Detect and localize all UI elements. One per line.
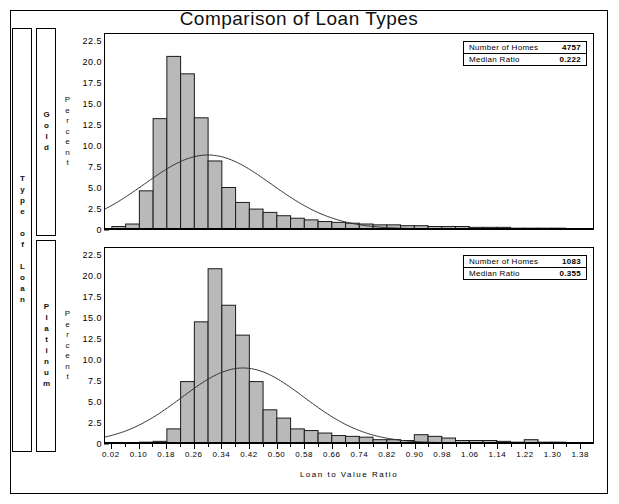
x-tick-mark-minor bbox=[401, 444, 402, 447]
histogram-panel-platinum: Number of Homes 1083 Median Ratio 0.355 bbox=[104, 247, 594, 444]
histogram-bar bbox=[208, 269, 222, 443]
y-tick-label: 5.0 bbox=[88, 183, 102, 193]
x-tick-label: 0.50 bbox=[268, 450, 286, 459]
x-tick-mark bbox=[580, 444, 581, 449]
histogram-bar bbox=[249, 209, 263, 229]
x-tick-mark-minor bbox=[484, 444, 485, 447]
histogram-bar bbox=[332, 222, 346, 229]
x-tick-mark bbox=[332, 444, 333, 449]
y-tick-label: 20.0 bbox=[82, 271, 102, 281]
x-tick-mark-minor bbox=[373, 444, 374, 447]
classification-label-type-of-loan: Type of Loan bbox=[18, 174, 26, 306]
x-tick-label: 1.38 bbox=[571, 450, 589, 459]
x-tick-mark-minor bbox=[152, 444, 153, 447]
y-tick-label: 0 bbox=[96, 439, 102, 449]
x-tick-mark-minor bbox=[180, 444, 181, 447]
x-tick-label: 0.58 bbox=[295, 450, 313, 459]
histogram-bar bbox=[332, 436, 346, 443]
histogram-bar bbox=[167, 429, 181, 443]
histogram-bar bbox=[236, 202, 250, 229]
x-tick-label: 1.06 bbox=[461, 450, 479, 459]
y-tick-label: 10.0 bbox=[82, 141, 102, 151]
legend-box-platinum: Number of Homes 1083 Median Ratio 0.355 bbox=[463, 255, 587, 280]
y-axis-ticks-gold: 22.520.017.515.012.510.07.55.02.50 bbox=[70, 33, 102, 230]
x-tick-label: 0.18 bbox=[157, 450, 175, 459]
classification-box-gold: Gold bbox=[36, 28, 56, 236]
histogram-bar bbox=[249, 382, 263, 443]
x-tick-mark bbox=[139, 444, 140, 449]
x-tick-label: 0.90 bbox=[406, 450, 424, 459]
histogram-bar bbox=[263, 410, 277, 443]
x-tick-label: 1.14 bbox=[489, 450, 507, 459]
x-tick-mark bbox=[525, 444, 526, 449]
x-tick-label: 1.30 bbox=[544, 450, 562, 459]
page-title: Comparison of Loan Types bbox=[0, 8, 598, 30]
y-tick-label: 22.5 bbox=[82, 36, 102, 46]
y-tick-label: 2.5 bbox=[88, 418, 102, 428]
histogram-bar bbox=[291, 429, 305, 443]
x-tick-label: 0.66 bbox=[323, 450, 341, 459]
legend-value-number-of-homes: 1083 bbox=[562, 257, 581, 266]
y-tick-label: 17.5 bbox=[82, 78, 102, 88]
x-tick-label: 0.10 bbox=[130, 450, 148, 459]
y-tick-label: 7.5 bbox=[88, 162, 102, 172]
x-tick-mark bbox=[304, 444, 305, 449]
x-tick-mark bbox=[442, 444, 443, 449]
classification-label-platinum: Platinum bbox=[42, 302, 50, 390]
y-tick-label: 15.0 bbox=[82, 99, 102, 109]
y-tick-label: 10.0 bbox=[82, 355, 102, 365]
legend-box-gold: Number of Homes 4757 Median Ratio 0.222 bbox=[463, 41, 587, 66]
legend-row-median-ratio: Median Ratio 0.222 bbox=[464, 54, 586, 65]
histogram-bar bbox=[167, 56, 181, 229]
histogram-bar bbox=[222, 188, 236, 229]
x-tick-mark-minor bbox=[208, 444, 209, 447]
x-tick-mark bbox=[553, 444, 554, 449]
legend-row-number-of-homes: Number of Homes 1083 bbox=[464, 256, 586, 268]
histogram-bar bbox=[318, 222, 332, 229]
classification-box-type-of-loan: Type of Loan bbox=[12, 28, 32, 452]
legend-label-number-of-homes: Number of Homes bbox=[469, 43, 538, 52]
y-tick-label: 5.0 bbox=[88, 397, 102, 407]
histogram-bar bbox=[194, 322, 208, 443]
legend-label-median-ratio: Median Ratio bbox=[469, 55, 520, 64]
x-tick-mark-minor bbox=[539, 444, 540, 447]
legend-value-number-of-homes: 4757 bbox=[562, 43, 581, 52]
x-tick-mark-minor bbox=[346, 444, 347, 447]
legend-row-number-of-homes: Number of Homes 4757 bbox=[464, 42, 586, 54]
histogram-bar bbox=[208, 161, 222, 229]
histogram-bar bbox=[304, 431, 318, 443]
y-axis-ticks-platinum: 22.520.017.515.012.510.07.55.02.50 bbox=[70, 247, 102, 444]
x-tick-mark-minor bbox=[318, 444, 319, 447]
y-tick-label: 2.5 bbox=[88, 204, 102, 214]
legend-value-median-ratio: 0.222 bbox=[559, 55, 581, 64]
histogram-bar bbox=[277, 216, 291, 229]
histogram-bar bbox=[139, 191, 153, 229]
x-tick-mark bbox=[221, 444, 222, 449]
histogram-bar bbox=[346, 436, 360, 443]
x-tick-mark-minor bbox=[290, 444, 291, 447]
x-tick-mark bbox=[415, 444, 416, 449]
x-tick-mark-minor bbox=[125, 444, 126, 447]
histogram-bar bbox=[318, 433, 332, 443]
x-tick-mark-minor bbox=[263, 444, 264, 447]
x-tick-mark-minor bbox=[428, 444, 429, 447]
x-tick-label: 1.22 bbox=[516, 450, 534, 459]
histogram-bar bbox=[181, 74, 195, 229]
x-axis-title: Loan to Value Ratio bbox=[104, 470, 594, 479]
x-tick-mark bbox=[359, 444, 360, 449]
x-tick-mark bbox=[249, 444, 250, 449]
histogram-bar bbox=[236, 335, 250, 443]
x-tick-label: 0.26 bbox=[185, 450, 203, 459]
legend-row-median-ratio: Median Ratio 0.355 bbox=[464, 268, 586, 279]
histogram-bar bbox=[194, 118, 208, 229]
x-tick-mark-minor bbox=[235, 444, 236, 447]
classification-box-platinum: Platinum bbox=[36, 240, 56, 452]
legend-value-median-ratio: 0.355 bbox=[559, 269, 581, 278]
x-tick-mark-minor bbox=[456, 444, 457, 447]
x-tick-mark bbox=[387, 444, 388, 449]
classification-label-gold: Gold bbox=[42, 110, 50, 154]
x-tick-label: 0.42 bbox=[240, 450, 258, 459]
histogram-bar bbox=[291, 218, 305, 229]
x-tick-label: 0.02 bbox=[102, 450, 120, 459]
y-tick-label: 15.0 bbox=[82, 313, 102, 323]
